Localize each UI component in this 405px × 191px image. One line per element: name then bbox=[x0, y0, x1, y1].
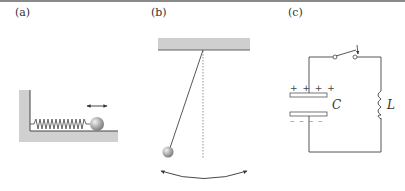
mass-ball bbox=[90, 117, 104, 131]
switch-blade bbox=[336, 50, 356, 56]
lc-circuit: + + + + – – – – C L bbox=[290, 45, 395, 152]
spring bbox=[30, 119, 90, 129]
ceiling bbox=[158, 38, 250, 50]
swing-arrow-icon bbox=[161, 171, 247, 179]
switch-arrow-icon bbox=[357, 45, 358, 54]
capacitor-label: C bbox=[332, 98, 341, 112]
pendulum-bob bbox=[163, 147, 174, 158]
minus-signs: – – – – bbox=[290, 116, 324, 126]
pendulum-string bbox=[170, 50, 203, 148]
plus-signs: + + + + bbox=[290, 83, 336, 93]
switch-contact-right bbox=[353, 55, 357, 59]
inductor-coil bbox=[378, 91, 381, 119]
physics-diagram: + + + + – – – – C L bbox=[0, 0, 405, 191]
capacitor-plate-top bbox=[290, 93, 327, 97]
inductor-label: L bbox=[386, 98, 395, 112]
wall bbox=[19, 90, 118, 142]
pendulum-system bbox=[158, 38, 250, 179]
spring-mass-system bbox=[19, 90, 118, 142]
